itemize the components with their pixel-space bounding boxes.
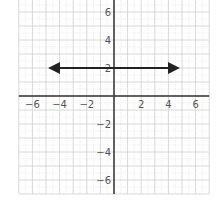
x-tick-label: 2 xyxy=(138,99,144,110)
y-tick-label: −6 xyxy=(96,175,111,186)
x-tick-label: −6 xyxy=(25,99,40,110)
coordinate-plane: −6−4−2246 642−2−4−6 xyxy=(0,0,216,207)
y-tick-label: −2 xyxy=(96,119,111,130)
x-tick-label: −4 xyxy=(52,99,67,110)
y-tick-label: −4 xyxy=(96,147,111,158)
y-tick-label: 6 xyxy=(105,7,111,18)
x-tick-labels: −6−4−2246 xyxy=(25,99,199,110)
axes xyxy=(19,0,209,194)
x-tick-label: −2 xyxy=(79,99,94,110)
x-tick-label: 4 xyxy=(165,99,171,110)
y-tick-label: 4 xyxy=(105,35,111,46)
x-tick-label: 6 xyxy=(192,99,198,110)
